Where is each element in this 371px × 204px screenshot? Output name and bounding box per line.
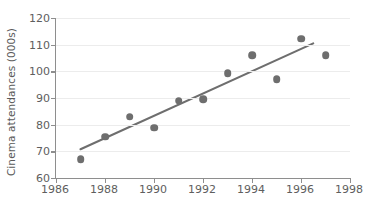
gridline-y bbox=[56, 45, 350, 46]
y-axis-tick-labels: 60708090100110120 bbox=[18, 18, 50, 178]
x-axis-tick-labels: 1986198819901992199419961998 bbox=[55, 183, 349, 201]
data-point bbox=[77, 156, 85, 164]
y-axis-tick-label: 90 bbox=[24, 92, 50, 105]
y-axis-tick-label: 120 bbox=[24, 12, 50, 25]
x-axis-tick bbox=[350, 178, 351, 183]
y-axis-tick-label: 110 bbox=[24, 38, 50, 51]
x-axis-tick-label: 1992 bbox=[182, 183, 222, 196]
x-axis-tick bbox=[203, 178, 204, 183]
data-point bbox=[126, 113, 134, 121]
data-point bbox=[175, 97, 183, 105]
data-point bbox=[248, 52, 256, 60]
data-point bbox=[199, 96, 207, 104]
x-axis-tick bbox=[301, 178, 302, 183]
y-axis-tick bbox=[51, 71, 56, 72]
gridline-y bbox=[56, 151, 350, 152]
data-point bbox=[224, 69, 232, 77]
x-axis-tick-label: 1990 bbox=[133, 183, 173, 196]
x-axis-tick-label: 1988 bbox=[84, 183, 124, 196]
gridline-y bbox=[56, 18, 350, 19]
x-axis-tick-label: 1994 bbox=[231, 183, 271, 196]
y-axis-tick bbox=[51, 45, 56, 46]
x-axis-tick bbox=[252, 178, 253, 183]
x-axis-tick-label: 1996 bbox=[280, 183, 320, 196]
scatter-chart: Cinema attendances (000s) 60708090100110… bbox=[0, 0, 371, 204]
gridline-y bbox=[56, 71, 350, 72]
data-point bbox=[101, 133, 109, 141]
x-axis-tick bbox=[105, 178, 106, 183]
y-axis-tick bbox=[51, 98, 56, 99]
data-point bbox=[273, 76, 281, 84]
y-axis-tick-label: 80 bbox=[24, 118, 50, 131]
y-axis-tick bbox=[51, 151, 56, 152]
trend-line bbox=[81, 43, 314, 149]
x-axis-tick bbox=[154, 178, 155, 183]
y-axis-tick bbox=[51, 18, 56, 19]
gridline-y bbox=[56, 125, 350, 126]
y-axis-tick-label: 100 bbox=[24, 65, 50, 78]
data-point bbox=[322, 52, 330, 60]
x-axis-tick-label: 1998 bbox=[329, 183, 369, 196]
x-axis-tick-label: 1986 bbox=[35, 183, 75, 196]
x-axis-tick bbox=[56, 178, 57, 183]
y-axis-tick bbox=[51, 125, 56, 126]
data-point bbox=[297, 35, 305, 43]
data-point bbox=[150, 124, 158, 132]
plot-area bbox=[55, 18, 350, 179]
y-axis-tick-label: 70 bbox=[24, 145, 50, 158]
